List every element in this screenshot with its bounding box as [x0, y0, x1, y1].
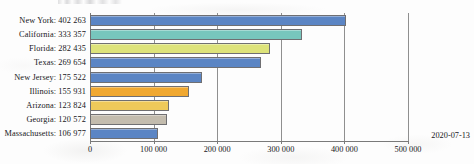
bar-row — [90, 86, 189, 97]
category-label-florida: Florida: 282 435 — [29, 43, 86, 54]
bar-florida[interactable] — [90, 43, 270, 54]
xtick-label-300000: 300 000 — [267, 145, 294, 155]
category-label-massachusetts: Massachusetts: 106 977 — [5, 128, 86, 139]
date-stamp: 2020-07-13 — [431, 131, 470, 141]
xtick-label-100000: 100 000 — [140, 145, 167, 155]
value-axis-ticks: 0100 000200 000300 000400 000500 000 — [90, 141, 410, 161]
bar-row — [90, 29, 302, 40]
xtick-mark-400000 — [344, 141, 345, 144]
category-label-georgia: Georgia: 120 572 — [26, 114, 86, 125]
bar-row — [90, 15, 346, 26]
gridline-400000 — [344, 13, 345, 141]
category-label-arizona: Arizona: 123 824 — [26, 100, 86, 111]
gridline-500000 — [408, 13, 409, 141]
bar-row — [90, 72, 202, 83]
xtick-mark-0 — [90, 141, 91, 144]
category-axis-labels: New York: 402 263California: 333 357Flor… — [0, 13, 88, 141]
bar-arizona[interactable] — [90, 100, 169, 111]
xtick-label-500000: 500 000 — [395, 145, 422, 155]
bar-illinois[interactable] — [90, 86, 189, 97]
bar-row — [90, 43, 270, 54]
xtick-label-400000: 400 000 — [331, 145, 358, 155]
chart-screenshot: New York: 402 263California: 333 357Flor… — [0, 0, 474, 164]
bar-row — [90, 57, 261, 68]
bar-row — [90, 114, 167, 125]
bar-row — [90, 128, 158, 139]
category-label-illinois: Illinois: 155 931 — [29, 86, 86, 97]
xtick-mark-300000 — [281, 141, 282, 144]
bar-georgia[interactable] — [90, 114, 167, 125]
xtick-mark-100000 — [154, 141, 155, 144]
bar-row — [90, 100, 169, 111]
bar-texas[interactable] — [90, 57, 261, 68]
cropped-title-artifact — [58, 0, 122, 4]
category-label-new-jersey: New Jersey: 175 522 — [14, 72, 86, 83]
bar-massachusetts[interactable] — [90, 128, 158, 139]
xtick-mark-500000 — [408, 141, 409, 144]
plot-area — [90, 13, 408, 141]
category-label-california: California: 333 357 — [19, 29, 86, 40]
xtick-label-0: 0 — [88, 145, 92, 155]
category-label-texas: Texas: 269 654 — [34, 57, 86, 68]
bar-california[interactable] — [90, 29, 302, 40]
xtick-label-200000: 200 000 — [204, 145, 231, 155]
category-label-new-york: New York: 402 263 — [19, 15, 86, 26]
bar-new-york[interactable] — [90, 15, 346, 26]
bar-new-jersey[interactable] — [90, 72, 202, 83]
xtick-mark-200000 — [217, 141, 218, 144]
